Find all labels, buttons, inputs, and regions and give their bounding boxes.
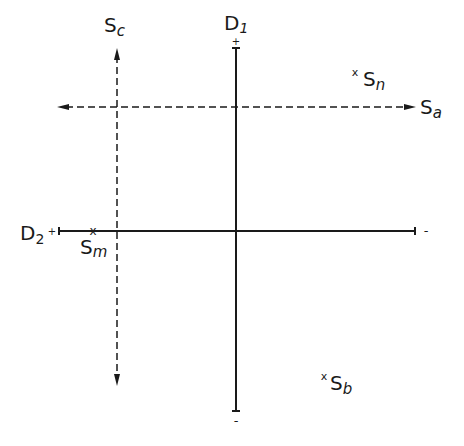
sc-arrow-down-icon bbox=[114, 374, 120, 386]
d1-minus-sign: - bbox=[234, 413, 239, 428]
sc-arrow-up-icon bbox=[114, 48, 120, 60]
point-sn: x Sn bbox=[352, 66, 385, 94]
sa-label: Sa bbox=[420, 95, 442, 122]
sa-arrow-right-icon bbox=[404, 104, 416, 110]
point-sb: x Sb bbox=[321, 370, 352, 398]
sb-marker: x bbox=[321, 370, 328, 383]
sa-axis: Sa bbox=[57, 95, 442, 122]
sc-axis: Sc bbox=[104, 13, 126, 386]
sm-label: Sm bbox=[80, 235, 107, 261]
point-sm: x Sm bbox=[80, 224, 107, 261]
discriminant-space-diagram: + - D1 + - D2 Sc Sa x Sm bbox=[0, 0, 464, 446]
d2-minus-sign: - bbox=[424, 223, 429, 238]
d2-label: D2 bbox=[20, 221, 44, 247]
sa-arrow-left-icon bbox=[57, 104, 69, 110]
sn-label: Sn bbox=[363, 67, 385, 94]
d1-plus-sign: + bbox=[232, 36, 240, 47]
sc-label: Sc bbox=[104, 13, 126, 40]
d1-axis: + - D1 bbox=[224, 11, 248, 428]
sb-label: Sb bbox=[330, 371, 352, 398]
d2-plus-sign: + bbox=[48, 226, 56, 237]
sn-marker: x bbox=[352, 66, 359, 79]
d1-label: D1 bbox=[224, 11, 248, 36]
